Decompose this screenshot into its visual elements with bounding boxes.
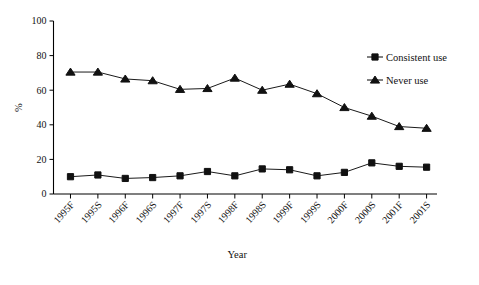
data-point-triangle — [395, 123, 404, 130]
data-point-triangle — [340, 104, 349, 111]
data-point-square — [204, 168, 210, 174]
y-axis-tick-label: 0 — [42, 188, 47, 199]
x-axis-tick-label: 1996F — [106, 199, 132, 226]
x-axis-tick-label: 2000F — [325, 199, 351, 226]
data-point-square — [150, 174, 156, 180]
x-axis-tick-label: 1997S — [188, 199, 213, 225]
line-chart: 020406080100%1995F1995S1996F1996S1997F19… — [0, 0, 479, 285]
x-axis-tick-label: 1997F — [161, 199, 187, 226]
y-axis-title: % — [13, 103, 24, 112]
y-axis-tick-label: 20 — [37, 154, 47, 165]
x-axis-tick-label: 2001F — [380, 199, 406, 226]
x-axis-title: Year — [228, 249, 248, 260]
data-point-square — [232, 173, 238, 179]
data-point-square — [177, 173, 183, 179]
data-point-square — [259, 166, 265, 172]
x-axis-tick-label: 2000S — [353, 199, 378, 225]
y-axis-tick-label: 40 — [37, 119, 47, 130]
data-point-square — [67, 174, 73, 180]
data-point-triangle — [230, 74, 239, 81]
data-point-triangle — [367, 112, 376, 119]
legend-label-2: Never use — [386, 75, 429, 86]
data-point-triangle — [285, 80, 294, 87]
x-axis-tick-label: 1995F — [51, 199, 77, 226]
data-point-square — [122, 175, 128, 181]
x-axis-tick-label: 1998F — [216, 199, 242, 226]
x-axis-tick-label: 2001S — [407, 199, 432, 225]
x-axis-tick-label: 1995S — [79, 199, 104, 225]
x-axis-tick-label: 1999F — [270, 199, 296, 226]
legend-label-1: Consistent use — [386, 52, 447, 63]
data-point-square — [341, 169, 347, 175]
legend-marker-square — [372, 54, 378, 60]
chart-container: 020406080100%1995F1995S1996F1996S1997F19… — [0, 0, 479, 285]
data-point-triangle — [312, 90, 321, 97]
y-axis-tick-label: 60 — [37, 85, 47, 96]
data-point-square — [314, 173, 320, 179]
x-axis-tick-label: 1998S — [243, 199, 268, 225]
data-point-square — [95, 172, 101, 178]
data-point-square — [287, 167, 293, 173]
x-axis-tick-label: 1996S — [133, 199, 158, 225]
data-point-triangle — [203, 85, 212, 92]
y-axis-tick-label: 100 — [32, 15, 47, 26]
y-axis-tick-label: 80 — [37, 50, 47, 61]
data-point-square — [369, 160, 375, 166]
data-point-square — [423, 164, 429, 170]
x-axis-tick-label: 1999S — [298, 199, 323, 225]
data-point-square — [396, 163, 402, 169]
